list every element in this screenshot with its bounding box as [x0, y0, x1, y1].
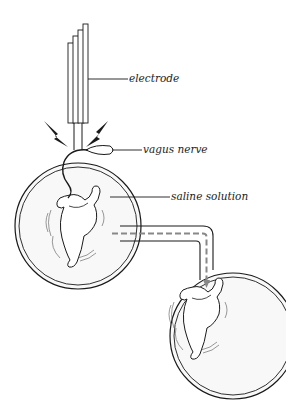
label-vagus-nerve: vagus nerve	[143, 143, 208, 155]
label-saline-solution: saline solution	[171, 190, 248, 202]
lightning-bolt-icon	[44, 121, 108, 147]
label-electrode: electrode	[129, 72, 179, 84]
electrode	[68, 24, 88, 150]
